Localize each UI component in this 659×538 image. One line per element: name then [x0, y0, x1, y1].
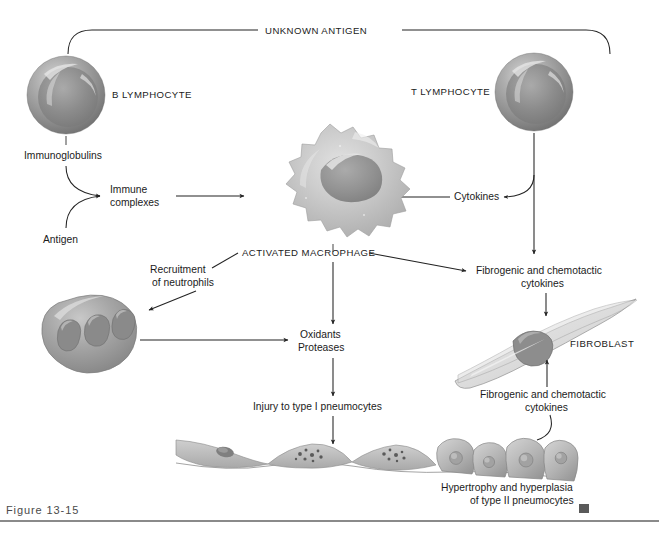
activated-macrophage-cell [286, 124, 410, 237]
type-ii-pneumocytes [437, 438, 578, 481]
hypertrophy-label-line2: of type II pneumocytes [470, 495, 574, 506]
activated-macrophage-label: ACTIVATED MACROPHAGE [242, 247, 375, 258]
cytokines-label: Cytokines [454, 191, 499, 202]
alveolar-epithelium [176, 438, 578, 481]
macrophage-to-fibrogenic-arrow [369, 253, 466, 271]
oxidants-label: Oxidants [300, 329, 341, 340]
b-lymphocyte-cell [27, 56, 105, 134]
hypertrophy-label-line1: Hypertrophy and hyperplasia [441, 482, 573, 493]
antigen-label: Antigen [43, 234, 78, 245]
figure-page: UNKNOWN ANTIGEN B LYMPHOCYTE Immunoglobu… [0, 0, 659, 538]
immunoglobulins-label: Immunoglobulins [24, 150, 102, 161]
pathogenesis-diagram: UNKNOWN ANTIGEN B LYMPHOCYTE Immunoglobu… [0, 0, 659, 538]
proteases-label: Proteases [298, 342, 344, 353]
antigen-to-immune-complexes-arrow [66, 196, 100, 228]
ig-to-immune-complexes-arrow [66, 166, 100, 196]
immune-complexes-label-line1: Immune [110, 184, 147, 195]
square-marker-icon [579, 504, 589, 513]
b-lymphocyte-label: B LYMPHOCYTE [112, 89, 192, 100]
t-lymphocyte-label: T LYMPHOCYTE [411, 86, 490, 97]
neutrophil-cell [42, 295, 137, 373]
unknown-antigen-label: UNKNOWN ANTIGEN [265, 25, 367, 36]
macrophage-to-recruitment-line [212, 253, 238, 268]
type2-to-fibrogenic-curve [537, 415, 551, 440]
figure-caption: Figure 13-15 [6, 504, 79, 516]
recruitment-label-line2: of neutrophils [152, 277, 214, 288]
fibrogenic-top-label-line2: cytokines [521, 278, 564, 289]
recruitment-to-neutrophil-arrow [149, 291, 196, 310]
t-lymph-to-cytokines-arrow [504, 175, 534, 197]
fibroblast-label: FIBROBLAST [570, 338, 634, 349]
fibrogenic-bottom-label-line2: cytokines [525, 402, 568, 413]
fibrogenic-bottom-label-line1: Fibrogenic and chemotactic [480, 389, 606, 400]
immune-complexes-label-line2: complexes [110, 197, 159, 208]
recruitment-label-line1: Recruitment [150, 264, 206, 275]
injury-type-i-label: Injury to type I pneumocytes [253, 401, 382, 412]
t-lymphocyte-cell [495, 53, 573, 131]
fibrogenic-top-label-line1: Fibrogenic and chemotactic [476, 265, 602, 276]
